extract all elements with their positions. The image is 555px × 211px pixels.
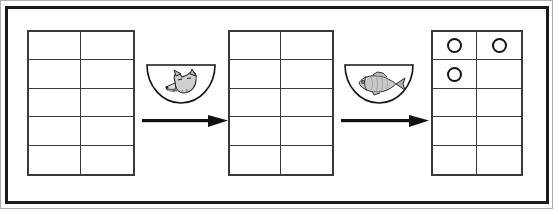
fish-bowl[interactable] (343, 62, 415, 106)
arrow-right-icon (142, 115, 228, 127)
counter-circle-icon[interactable] (447, 38, 462, 53)
mat-cell-r2-c1[interactable] (230, 60, 281, 88)
mat-cell-r2-c2[interactable] (281, 60, 332, 88)
mat-cell-r1-c1[interactable] (230, 32, 281, 60)
mat-cell-r2-c1[interactable] (29, 60, 81, 88)
mat-cell-r1-c2[interactable] (281, 32, 332, 60)
mat-cell-r1-c1[interactable] (433, 32, 477, 60)
mat-cell-r5-c1[interactable] (29, 146, 81, 174)
fox-bowl[interactable] (145, 62, 217, 106)
mat-cell-r5-c2[interactable] (281, 146, 332, 174)
mat-cell-r3-c2[interactable] (81, 89, 133, 117)
mat-cell-r1-c2[interactable] (81, 32, 133, 60)
mat-cell-r3-c2[interactable] (477, 89, 521, 117)
mat-cell-r4-c1[interactable] (433, 117, 477, 145)
mat-cell-r1-c1[interactable] (29, 32, 81, 60)
mat-cell-r4-c2[interactable] (477, 117, 521, 145)
mat-cell-r4-c1[interactable] (230, 117, 281, 145)
mat-cell-r3-c1[interactable] (230, 89, 281, 117)
middle-place-value-mat[interactable] (228, 30, 334, 176)
right-place-value-mat[interactable] (431, 30, 523, 176)
diagram-canvas (0, 0, 555, 211)
arrow-right-icon (341, 115, 429, 127)
mat-cell-r3-c1[interactable] (433, 89, 477, 117)
counter-circle-icon[interactable] (447, 67, 462, 82)
counter-circle-icon[interactable] (492, 38, 507, 53)
mat-cell-r5-c1[interactable] (433, 146, 477, 174)
mat-cell-r5-c1[interactable] (230, 146, 281, 174)
mat-cell-r4-c1[interactable] (29, 117, 81, 145)
mat-cell-r5-c2[interactable] (81, 146, 133, 174)
mat-cell-r2-c2[interactable] (477, 60, 521, 88)
mat-cell-r1-c2[interactable] (477, 32, 521, 60)
mat-cell-r4-c2[interactable] (81, 117, 133, 145)
mat-cell-r5-c2[interactable] (477, 146, 521, 174)
transform-arrow-right (341, 112, 429, 130)
left-place-value-mat[interactable] (27, 30, 135, 176)
mat-cell-r2-c2[interactable] (81, 60, 133, 88)
mat-cell-r3-c1[interactable] (29, 89, 81, 117)
mat-cell-r3-c2[interactable] (281, 89, 332, 117)
transform-arrow-left (142, 112, 228, 130)
mat-cell-r4-c2[interactable] (281, 117, 332, 145)
mat-cell-r2-c1[interactable] (433, 60, 477, 88)
